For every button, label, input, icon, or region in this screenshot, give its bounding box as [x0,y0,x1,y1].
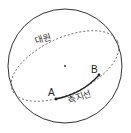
point-a-label: A [48,87,55,98]
point-b [98,74,101,77]
geodesic-label: 측지선 [66,88,92,106]
great-circle-label: 대원 [34,31,52,45]
sphere-diagram: 대원 측지선 A B [0,0,131,133]
point-b-label: B [91,64,98,75]
point-a [55,98,58,101]
center-point [64,65,66,67]
